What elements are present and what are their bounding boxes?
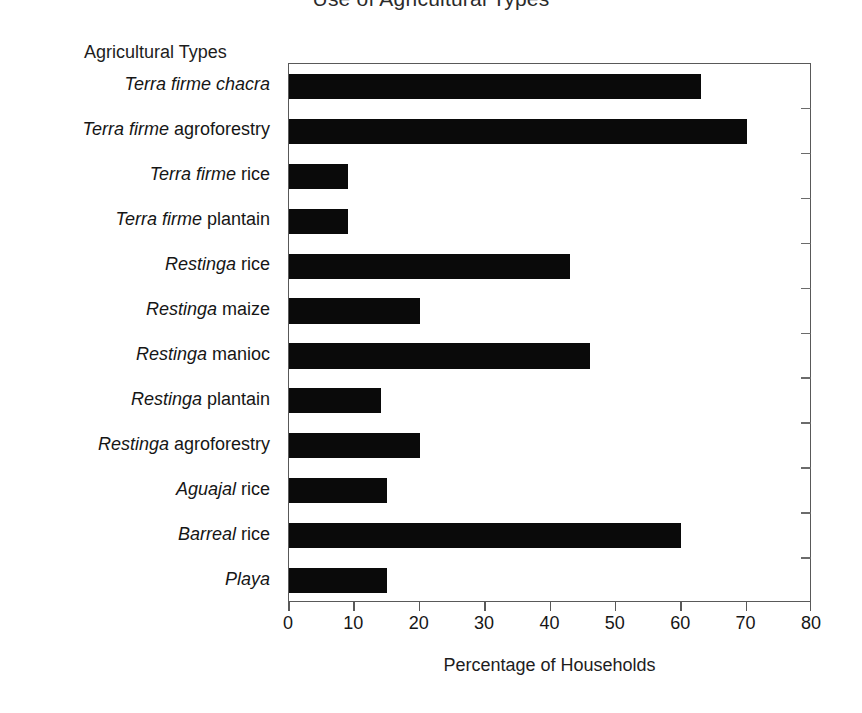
right-axis-minor-tick bbox=[801, 422, 811, 424]
y-axis-tick-label: Aguajal rice bbox=[176, 480, 270, 498]
right-axis-minor-tick bbox=[801, 333, 811, 335]
bar-row bbox=[289, 119, 810, 144]
y-axis-tick-label: Restinga manioc bbox=[136, 345, 270, 363]
y-axis-tick-labels: Terra firme chacraTerra firme agroforest… bbox=[0, 63, 280, 602]
bar bbox=[289, 478, 387, 503]
bar bbox=[289, 209, 348, 234]
y-axis-tick-label: Terra firme rice bbox=[150, 165, 270, 183]
right-axis-minor-tick bbox=[801, 467, 811, 469]
x-axis-tick-label: 80 bbox=[801, 613, 821, 634]
x-axis-tick-label: 10 bbox=[343, 613, 363, 634]
bar-row bbox=[289, 343, 810, 368]
y-axis-tick-label: Restinga rice bbox=[165, 255, 270, 273]
y-axis-title: Agricultural Types bbox=[0, 42, 278, 63]
y-axis-tick-label: Terra firme chacra bbox=[125, 75, 270, 93]
bar bbox=[289, 433, 420, 458]
bar-row bbox=[289, 254, 810, 279]
bar-row bbox=[289, 164, 810, 189]
x-axis-tick-label: 60 bbox=[670, 613, 690, 634]
right-axis-minor-tick bbox=[801, 108, 811, 110]
x-axis-tick-label: 70 bbox=[736, 613, 756, 634]
bar-row bbox=[289, 298, 810, 323]
bar-row bbox=[289, 433, 810, 458]
x-axis-tick-label: 40 bbox=[539, 613, 559, 634]
bar-row bbox=[289, 523, 810, 548]
right-axis-minor-tick bbox=[801, 243, 811, 245]
y-axis-tick-label: Restinga maize bbox=[146, 300, 270, 318]
y-axis-tick-label: Playa bbox=[225, 570, 270, 588]
x-axis-tick-label: 30 bbox=[474, 613, 494, 634]
bars-layer bbox=[289, 64, 810, 601]
x-axis-tick bbox=[419, 602, 421, 611]
x-axis-tick-label: 0 bbox=[283, 613, 293, 634]
x-axis-tick bbox=[550, 602, 552, 611]
x-axis-title: Percentage of Households bbox=[288, 655, 811, 676]
x-axis-tick bbox=[615, 602, 617, 611]
plot-area bbox=[288, 63, 811, 602]
x-axis-tick bbox=[746, 602, 748, 611]
bar bbox=[289, 74, 701, 99]
x-axis-tick-labels: 01020304050607080 bbox=[288, 613, 811, 639]
y-axis-tick-label: Terra firme plantain bbox=[116, 210, 270, 228]
y-axis-tick-label: Barreal rice bbox=[178, 525, 270, 543]
bar-row bbox=[289, 209, 810, 234]
bar-row bbox=[289, 388, 810, 413]
right-axis-minor-tick bbox=[801, 288, 811, 290]
x-axis-tick bbox=[353, 602, 355, 611]
bar bbox=[289, 254, 570, 279]
right-axis-minor-tick bbox=[801, 198, 811, 200]
right-axis-minor-tick bbox=[801, 153, 811, 155]
x-axis-ticks bbox=[288, 602, 811, 612]
bar bbox=[289, 298, 420, 323]
x-axis-tick bbox=[810, 602, 812, 611]
x-axis-tick bbox=[484, 602, 486, 611]
y-axis-tick-label: Terra firme agroforestry bbox=[83, 120, 270, 138]
bar-row bbox=[289, 568, 810, 593]
right-axis-minor-ticks bbox=[801, 63, 811, 602]
x-axis-tick bbox=[680, 602, 682, 611]
right-axis-minor-tick bbox=[801, 557, 811, 559]
bar bbox=[289, 388, 381, 413]
bar bbox=[289, 119, 747, 144]
chart-title: Use of Agricultural Types bbox=[0, 0, 862, 11]
bar-chart-figure: Use of Agricultural Types Agricultural T… bbox=[0, 0, 862, 713]
x-axis-tick bbox=[288, 602, 290, 611]
y-axis-tick-label: Restinga plantain bbox=[131, 390, 270, 408]
x-axis-tick-label: 20 bbox=[409, 613, 429, 634]
y-axis-tick-label: Restinga agroforestry bbox=[98, 435, 270, 453]
bar bbox=[289, 343, 590, 368]
bar bbox=[289, 523, 681, 548]
bar-row bbox=[289, 478, 810, 503]
right-axis-minor-tick bbox=[801, 377, 811, 379]
bar-row bbox=[289, 74, 810, 99]
bar bbox=[289, 568, 387, 593]
x-axis-tick-label: 50 bbox=[605, 613, 625, 634]
bar bbox=[289, 164, 348, 189]
right-axis-minor-tick bbox=[801, 512, 811, 514]
